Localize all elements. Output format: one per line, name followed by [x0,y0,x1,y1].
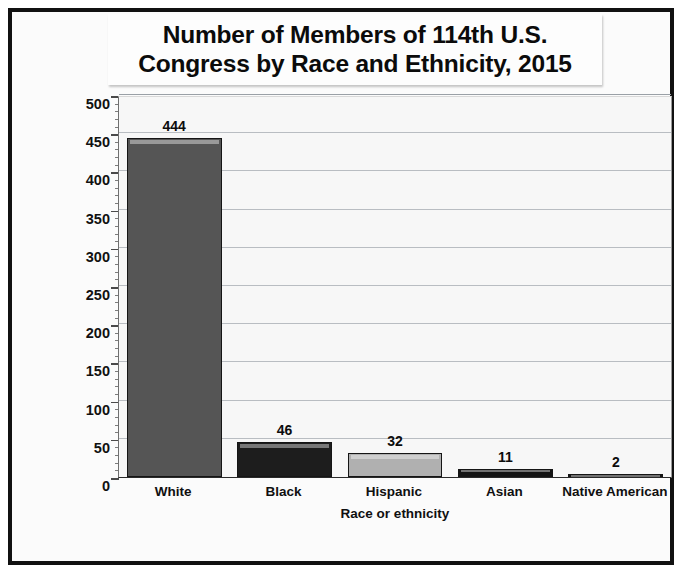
bar-highlight [461,470,550,472]
chart-image: Number of Members of 114th U.S. Congress… [0,0,682,575]
bar-value-label: 11 [498,449,513,465]
x-axis-tick-label: White [155,484,192,499]
bar-highlight [351,455,440,459]
plot-area: 4444632112 [118,96,672,478]
y-axis-tick-major [111,478,119,480]
bar-asian [458,469,553,477]
y-axis-tick-labels: 050100150200250300350400450500 [58,96,110,478]
x-axis-tick-label: Native American [562,484,667,499]
bar-value-label: 32 [387,433,403,449]
x-axis-tick-labels: WhiteBlackHispanicAsianNative American [118,484,672,506]
bar-native-american [568,474,663,477]
bar-value-label: 2 [612,454,620,470]
y-axis-title: Number of members [28,0,52,120]
x-axis-tick-label: Black [266,484,302,499]
chart-title: Number of Members of 114th U.S. Congress… [138,21,572,78]
bar-value-label: 444 [163,118,186,134]
chart-title-panel: Number of Members of 114th U.S. Congress… [108,14,602,85]
gridline [119,132,671,133]
gridline [119,94,671,95]
bar-hispanic [348,453,443,477]
x-axis-tick-label: Hispanic [366,484,422,499]
x-axis-title: Race or ethnicity [118,506,672,521]
bar-value-label: 46 [277,422,293,438]
x-axis-tick-label: Asian [486,484,523,499]
bar-highlight [240,444,329,448]
bar-highlight [571,475,660,477]
bar-black [237,442,332,477]
bar-highlight [130,140,219,144]
bar-white [127,138,222,477]
